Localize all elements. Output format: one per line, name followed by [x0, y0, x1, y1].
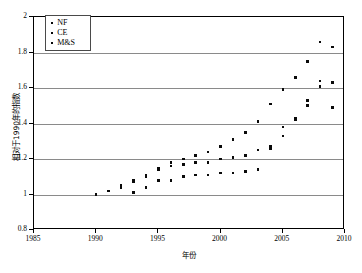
x-axis-tick	[344, 229, 345, 233]
data-point-m-s	[194, 174, 197, 177]
data-point-m-s	[282, 126, 285, 129]
y-axis-tick-label: 1.4	[0, 119, 27, 127]
data-point-m-s	[319, 80, 322, 83]
x-axis-tick-label: 1990	[75, 235, 115, 243]
legend-item-ce: CE	[49, 28, 85, 38]
x-axis-tick	[33, 229, 34, 233]
data-point-m-s	[145, 186, 148, 189]
legend-marker-icon	[51, 42, 53, 44]
data-point-nf	[294, 76, 297, 79]
data-point-nf	[282, 88, 285, 91]
data-point-m-s	[95, 193, 98, 196]
x-axis-tick	[157, 229, 158, 233]
data-point-m-s	[294, 119, 297, 122]
data-point-ce	[157, 168, 160, 171]
y-axis-tick	[29, 52, 33, 53]
legend-marker-icon	[51, 32, 53, 34]
x-axis-tick	[282, 229, 283, 233]
data-point-m-s	[306, 99, 309, 102]
legend-item-nf: NF	[49, 18, 85, 28]
legend-marker-icon	[51, 22, 53, 24]
data-point-nf	[232, 138, 235, 141]
y-axis-tick-label: 2	[0, 12, 27, 20]
data-point-nf	[319, 41, 322, 44]
y-axis-tick	[29, 16, 33, 17]
data-point-ce	[331, 81, 334, 84]
data-point-nf	[331, 46, 334, 49]
x-axis-tick-label: 2000	[200, 235, 240, 243]
x-axis-title: 年份	[149, 249, 229, 260]
y-axis-tick-label: 1.2	[0, 154, 27, 162]
y-gridline	[34, 53, 343, 54]
data-point-m-s	[207, 174, 210, 177]
data-point-m-s	[157, 179, 160, 182]
data-point-m-s	[170, 179, 173, 182]
legend-label: M&S	[57, 39, 75, 47]
y-gridline	[34, 159, 343, 160]
y-gridline	[34, 195, 343, 196]
data-point-m-s	[120, 186, 123, 189]
chart-legend: NF CE M&S	[45, 15, 91, 51]
x-axis-tick-label: 2010	[324, 235, 362, 243]
data-point-m-s	[269, 147, 272, 150]
data-point-ce	[306, 104, 309, 107]
x-axis-tick-label: 1995	[137, 235, 177, 243]
data-point-nf	[269, 103, 272, 106]
data-point-ce	[194, 161, 197, 164]
data-point-ce	[219, 158, 222, 161]
data-point-ce	[244, 154, 247, 157]
data-point-m-s	[132, 191, 135, 194]
y-axis-tick	[29, 158, 33, 159]
x-axis-tick-label: 1985	[13, 235, 53, 243]
data-point-ce	[182, 163, 185, 166]
x-axis-tick	[95, 229, 96, 233]
x-axis-tick	[220, 229, 221, 233]
data-point-ce	[232, 156, 235, 159]
y-gridline	[34, 88, 343, 89]
y-axis-tick-label: 0.8	[0, 225, 27, 233]
data-point-m-s	[219, 172, 222, 175]
data-point-m-s	[257, 168, 260, 171]
data-point-m-s	[331, 106, 334, 109]
x-axis-tick-label: 2005	[262, 235, 302, 243]
data-point-ce	[319, 85, 322, 88]
data-point-nf	[306, 60, 309, 63]
data-point-m-s	[107, 190, 110, 193]
y-axis-tick-label: 1.8	[0, 48, 27, 56]
data-point-m-s	[182, 175, 185, 178]
data-point-nf	[244, 131, 247, 134]
data-point-m-s	[232, 172, 235, 175]
y-gridline	[34, 124, 343, 125]
data-point-nf	[182, 158, 185, 161]
data-point-ce	[170, 165, 173, 168]
data-point-nf	[219, 145, 222, 148]
y-axis-tick-label: 1	[0, 190, 27, 198]
y-axis-tick	[29, 123, 33, 124]
y-axis-tick	[29, 87, 33, 88]
data-point-ce	[132, 181, 135, 184]
y-axis-tick-label: 1.6	[0, 83, 27, 91]
legend-label: CE	[57, 29, 67, 37]
y-axis-tick	[29, 194, 33, 195]
data-point-nf	[194, 154, 197, 157]
legend-item-ms: M&S	[49, 38, 85, 48]
data-point-nf	[257, 120, 260, 123]
legend-label: NF	[57, 19, 67, 27]
data-point-ce	[207, 161, 210, 164]
data-point-ce	[145, 175, 148, 178]
data-point-ce	[257, 149, 260, 152]
data-point-ce	[282, 135, 285, 138]
chart-figure: 相对于1990年的指数 年份 NF CE M&S 0.811.21.41.61.…	[0, 0, 362, 273]
data-point-nf	[170, 161, 173, 164]
data-point-nf	[207, 151, 210, 154]
data-point-m-s	[244, 170, 247, 173]
